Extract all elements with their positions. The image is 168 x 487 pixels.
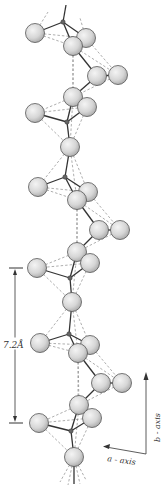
b-axis-arrow-icon (144, 372, 149, 380)
atom-sphere (64, 37, 83, 56)
small-atoms (61, 20, 73, 433)
atom-sphere (31, 334, 50, 353)
b-axis-label: b - axis (153, 413, 162, 442)
small-atom (67, 332, 71, 336)
atom-sphere (68, 191, 87, 210)
atom-sphere (92, 374, 111, 393)
atom-sphere (63, 293, 82, 312)
atom-sphere (88, 67, 107, 86)
atom-sphere (78, 98, 97, 117)
a-axis-label: a - axis (107, 454, 136, 467)
atom-sphere (26, 104, 45, 123)
atom-sphere (111, 221, 130, 240)
atom-sphere (90, 221, 109, 240)
atom-sphere (81, 254, 100, 273)
small-atom (68, 276, 72, 280)
atom-sphere (83, 409, 102, 428)
small-atom (69, 429, 73, 433)
small-atom (63, 175, 67, 179)
atom-sphere (28, 259, 47, 278)
atom-spheres (26, 24, 132, 467)
atom-sphere (26, 24, 45, 43)
bond-line (63, 5, 66, 22)
atom-sphere (61, 138, 80, 157)
atom-sphere (113, 374, 132, 393)
a-axis-arrow-icon (103, 444, 110, 449)
atom-sphere (109, 66, 128, 85)
small-atom (61, 20, 65, 24)
atom-sphere (30, 414, 49, 433)
atom-sphere (65, 448, 84, 467)
atom-sphere (29, 178, 48, 197)
crystal-structure-diagram: 7.2Å b - axis a - axis (0, 0, 168, 487)
scale-bar-label: 7.2Å (3, 339, 24, 350)
atom-sphere (69, 344, 88, 363)
small-atom (65, 120, 69, 124)
